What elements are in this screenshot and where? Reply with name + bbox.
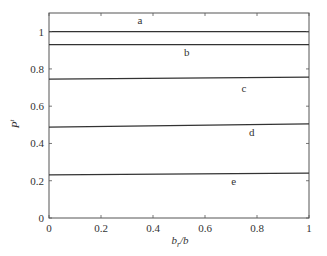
y-tick-label: 1 (39, 26, 45, 38)
curve-d (49, 124, 309, 127)
x-tick-label: 0 (46, 222, 52, 234)
x-tick-label: 0.4 (146, 222, 160, 234)
curve-e (49, 173, 309, 175)
y-tick-label: 0.4 (30, 137, 44, 149)
x-axis-label: br/b (171, 234, 189, 249)
curve-c (49, 77, 309, 79)
curve-label-e: e (231, 175, 236, 187)
curve-label-c: c (242, 82, 247, 94)
plot-area (49, 13, 309, 218)
curve-label-b: b (184, 46, 190, 58)
y-tick-label: 0 (39, 212, 45, 224)
y-tick-label: 0.6 (30, 100, 44, 112)
curve-label-a: a (138, 14, 143, 26)
x-tick-label: 0.8 (250, 222, 264, 234)
x-tick-label: 0.6 (198, 222, 212, 234)
axis-ticks: 00.20.40.60.8100.20.40.60.81 (30, 13, 312, 234)
curves (49, 32, 309, 175)
x-tick-label: 1 (306, 222, 312, 234)
y-tick-label: 0.2 (30, 175, 44, 187)
curve-label-d: d (249, 126, 255, 138)
curve-labels: abcde (138, 14, 255, 186)
plot-frame (49, 13, 309, 218)
chart: 00.20.40.60.8100.20.40.60.81 abcde br/b … (0, 0, 327, 256)
y-tick-label: 0.8 (30, 63, 44, 75)
x-tick-label: 0.2 (94, 222, 108, 234)
y-axis-label: Pt (8, 119, 21, 130)
